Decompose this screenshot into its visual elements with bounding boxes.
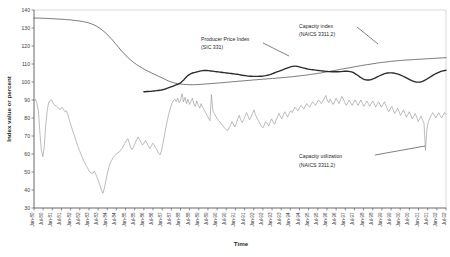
x-tick-label: Jan-95 (305, 212, 310, 226)
x-tick-label: Jul-97 (350, 212, 355, 225)
x-tick-label: Jul-98 (369, 212, 374, 225)
x-axis-ticks: Jan-80Jul-80Jan-81Jul-81Jan-82Jul-82Jan-… (30, 208, 447, 227)
annotation-capacity-utilization: Capacity utilization (NAICS 3311,2) (299, 146, 425, 168)
y-tick-label: 100 (22, 79, 31, 85)
x-tick-label: Jul-93 (277, 212, 282, 225)
y-tick-label: 60 (24, 151, 30, 157)
x-tick-label: Jul-87 (167, 212, 172, 225)
x-tick-label: Jul-92 (259, 212, 264, 225)
x-tick-label: Jan-99 (378, 212, 383, 226)
annotation-capindex-line2: (NAICS 3311,2) (299, 31, 336, 37)
y-tick-label: 50 (24, 169, 30, 175)
x-tick-label: Jul-00 (405, 212, 410, 225)
x-tick-label: Jul-86 (149, 212, 154, 225)
x-tick-label: Jul-99 (387, 212, 392, 225)
y-axis-ticks: 30405060708090100110120130140 (22, 7, 35, 211)
annotation-ppi-line2: (SIC 331) (201, 44, 223, 50)
x-tick-label: Jul-96 (332, 212, 337, 225)
annotation-ppi-line1: Producer Price Index (201, 36, 250, 42)
x-tick-label: Jan-94 (286, 212, 291, 226)
x-tick-label: Jul-83 (94, 212, 99, 225)
x-tick-label: Jul-90 (222, 212, 227, 225)
annotation-caputil-line2: (NAICS 3311,2) (299, 162, 336, 168)
y-tick-label: 70 (24, 133, 30, 139)
x-tick-label: Jan-82 (67, 212, 72, 226)
chart-figure: 30405060708090100110120130140 Jan-80Jul-… (0, 0, 450, 257)
x-tick-label: Jul-84 (112, 212, 117, 225)
x-tick-label: Jul-85 (131, 212, 136, 225)
x-tick-label: Jan-00 (396, 212, 401, 226)
line-chart-canvas: 30405060708090100110120130140 Jan-80Jul-… (0, 0, 450, 257)
annotation-caputil-line1: Capacity utilization (299, 153, 342, 159)
x-tick-label: Jan-83 (85, 212, 90, 226)
x-tick-label: Jan-92 (250, 212, 255, 226)
y-tick-label: 130 (22, 25, 31, 31)
x-tick-label: Jan-98 (360, 212, 365, 226)
y-tick-label: 30 (24, 205, 30, 211)
x-axis-title: Time (234, 240, 249, 247)
x-tick-label: Jul-88 (186, 212, 191, 225)
x-tick-label: Jan-93 (268, 212, 273, 226)
x-tick-label: Jan-97 (341, 212, 346, 226)
x-tick-label: Jul-01 (424, 212, 429, 225)
y-tick-label: 110 (22, 61, 30, 67)
x-tick-label: Jan-89 (195, 212, 200, 226)
y-axis-title: Index value or percent (5, 76, 12, 142)
annotation-capindex-leader-line (357, 27, 378, 44)
x-tick-label: Jul-81 (57, 212, 62, 225)
annotation-capindex-line1: Capacity index (299, 23, 333, 29)
x-tick-label: Jan-90 (213, 212, 218, 226)
x-tick-label: Jul-80 (39, 212, 44, 225)
y-tick-label: 40 (24, 187, 30, 193)
y-tick-label: 120 (22, 43, 31, 49)
annotation-ppi-leader-line (263, 43, 289, 56)
series-producer-price-index (144, 66, 446, 92)
x-tick-label: Jan-02 (433, 212, 438, 226)
x-tick-label: Jul-94 (296, 212, 301, 225)
y-tick-label: 140 (22, 7, 31, 13)
x-tick-label: Jan-91 (231, 212, 236, 226)
x-tick-label: Jan-86 (140, 212, 145, 226)
y-tick-label: 90 (24, 97, 30, 103)
x-tick-label: Jan-80 (30, 212, 35, 226)
annotation-caputil-leader-line (375, 146, 425, 155)
x-tick-label: Jul-82 (76, 212, 81, 225)
series-capacity-utilization (34, 94, 446, 194)
y-tick-label: 80 (24, 115, 30, 121)
x-tick-label: Jan-81 (48, 212, 53, 226)
x-tick-label: Jan-87 (158, 212, 163, 226)
annotation-producer-price-index: Producer Price Index (SIC 331) (201, 36, 289, 56)
x-tick-label: Jan-84 (103, 212, 108, 226)
x-tick-label: Jan-85 (122, 212, 127, 226)
annotation-capacity-index: Capacity index (NAICS 3311,2) (299, 23, 378, 44)
x-tick-label: Jul-95 (314, 212, 319, 225)
x-tick-label: Jan-01 (415, 212, 420, 226)
x-tick-label: Jan-96 (323, 212, 328, 226)
x-tick-label: Jul-02 (442, 212, 447, 225)
x-tick-label: Jul-89 (204, 212, 209, 225)
x-tick-label: Jan-88 (176, 212, 181, 226)
x-tick-label: Jul-91 (241, 212, 246, 225)
